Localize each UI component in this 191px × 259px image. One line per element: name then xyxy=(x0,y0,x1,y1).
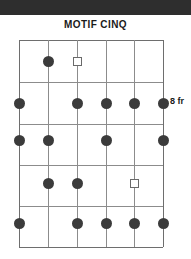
finger-dot-marker-7 xyxy=(14,135,25,146)
page-root: MOTIF CINQ 8 fr xyxy=(0,0,191,259)
fret-line-1 xyxy=(19,82,163,83)
open-square-marker-1 xyxy=(73,57,82,66)
finger-dot-marker-0 xyxy=(43,56,54,67)
string-line-3 xyxy=(77,40,78,247)
fret-line-2 xyxy=(19,124,163,125)
finger-dot-marker-8 xyxy=(43,135,54,146)
finger-dot-marker-5 xyxy=(129,98,140,109)
fret-line-5 xyxy=(19,247,163,248)
finger-dot-marker-10 xyxy=(158,135,169,146)
finger-dot-marker-4 xyxy=(101,98,112,109)
string-line-5 xyxy=(134,40,135,247)
finger-dot-marker-2 xyxy=(14,98,25,109)
finger-dot-marker-12 xyxy=(72,178,83,189)
chord-diagram-grid xyxy=(0,0,191,259)
finger-dot-marker-17 xyxy=(129,218,140,229)
open-square-marker-13 xyxy=(130,179,139,188)
finger-dot-marker-3 xyxy=(72,98,83,109)
finger-dot-marker-6 xyxy=(158,98,169,109)
finger-dot-marker-16 xyxy=(101,218,112,229)
fret-line-3 xyxy=(19,165,163,166)
finger-dot-marker-11 xyxy=(43,178,54,189)
fret-line-4 xyxy=(19,206,163,207)
fret-position-label: 8 fr xyxy=(170,96,184,107)
finger-dot-marker-18 xyxy=(158,218,169,229)
finger-dot-marker-14 xyxy=(14,218,25,229)
fret-line-0 xyxy=(19,40,163,41)
finger-dot-marker-15 xyxy=(72,218,83,229)
finger-dot-marker-9 xyxy=(101,135,112,146)
